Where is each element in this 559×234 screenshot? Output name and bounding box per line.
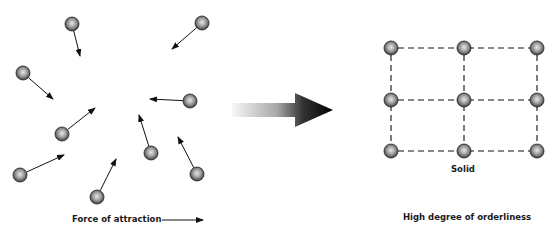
attraction-arrow-icon [28, 78, 53, 99]
particle [195, 16, 209, 30]
attraction-arrow-icon [100, 159, 116, 191]
particle [13, 168, 27, 182]
lattice-particle [384, 144, 398, 158]
lattice-particle [457, 144, 471, 158]
force-of-attraction-caption: Force of attraction [72, 214, 161, 224]
attraction-arrow-icon [139, 115, 149, 146]
attraction-arrow-icon [26, 155, 64, 172]
lattice-particle [457, 93, 471, 107]
attraction-arrow-icon [172, 28, 197, 49]
lattice-particle [530, 93, 544, 107]
lattice-particle [384, 93, 398, 107]
attraction-arrow-icon [67, 108, 95, 130]
attraction-arrow-icon [74, 31, 80, 56]
particle [183, 94, 197, 108]
diagram-canvas [0, 0, 559, 234]
lattice-particle [384, 41, 398, 55]
particle [65, 17, 79, 31]
solid-lattice [384, 41, 544, 158]
particle [90, 190, 104, 204]
disordered-particles [13, 16, 209, 204]
particle [55, 127, 69, 141]
attraction-arrow-icon [178, 137, 194, 168]
particle [16, 66, 30, 80]
particle [144, 146, 158, 160]
lattice-particle [457, 41, 471, 55]
transition-arrow-icon [232, 93, 333, 127]
particle [190, 167, 204, 181]
orderliness-caption: High degree of orderliness [403, 212, 531, 222]
lattice-particle [530, 144, 544, 158]
lattice-particle [530, 41, 544, 55]
solid-state-label: Solid [451, 164, 475, 174]
attraction-arrow-icon [150, 99, 183, 101]
